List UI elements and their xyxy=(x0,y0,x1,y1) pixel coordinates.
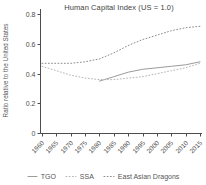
legend: TGO SSA East Asian Dragons xyxy=(0,173,206,180)
x-tick-label: 1975 xyxy=(73,139,88,154)
human-capital-index-chart: Human Capital Index (US = 1.0) Ratio rel… xyxy=(0,0,206,185)
x-tick-label: 2005 xyxy=(159,139,174,154)
x-tick-label: 1960 xyxy=(30,139,45,154)
ssa-line-swatch xyxy=(65,173,77,180)
tgo-line-swatch xyxy=(27,173,38,180)
x-tick-label: 1995 xyxy=(131,139,146,154)
legend-item-ssa: SSA xyxy=(65,173,94,180)
y-tick-label: 0.2 xyxy=(26,100,36,107)
legend-item-east-asian-dragons: East Asian Dragons xyxy=(103,173,179,180)
legend-item-tgo: TGO xyxy=(27,173,56,180)
x-tick-label: 1990 xyxy=(116,139,131,154)
plot-area: 00.20.40.60.8196019651970197519801985199… xyxy=(0,0,206,160)
y-tick-label: 0 xyxy=(32,130,36,137)
legend-label-ssa: SSA xyxy=(80,173,94,180)
series-line-east-asian-dragons xyxy=(42,26,200,63)
x-tick-label: 1970 xyxy=(59,139,74,154)
x-tick-label: 1985 xyxy=(102,139,117,154)
y-tick-label: 0.4 xyxy=(26,71,36,78)
x-tick-label: 2000 xyxy=(145,139,160,154)
x-tick-label: 2010 xyxy=(174,139,189,154)
x-tick-label: 1965 xyxy=(44,139,59,154)
x-tick-label: 2015 xyxy=(188,139,203,154)
legend-label-east-asian-dragons: East Asian Dragons xyxy=(118,173,179,180)
x-tick-label: 1980 xyxy=(87,139,102,154)
series-line-tgo xyxy=(100,62,201,81)
y-tick-label: 0.8 xyxy=(26,11,36,18)
y-tick-label: 0.6 xyxy=(26,41,36,48)
legend-label-tgo: TGO xyxy=(41,173,56,180)
east-asian-dragons-line-swatch xyxy=(103,173,115,180)
